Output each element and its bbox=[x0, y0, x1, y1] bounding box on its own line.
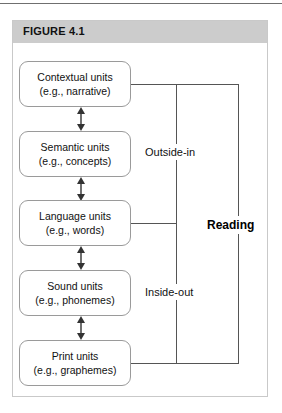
node-example: (e.g., narrative) bbox=[39, 84, 110, 98]
connector-language-horizontal bbox=[131, 223, 177, 224]
node-print-units: Print units (e.g., graphemes) bbox=[19, 340, 131, 386]
bracket-label-reading: Reading bbox=[203, 216, 258, 234]
figure-number-label: FIGURE 4.1 bbox=[23, 25, 85, 37]
node-sound-units: Sound units (e.g., phonemes) bbox=[19, 270, 131, 316]
node-title: Language units bbox=[39, 209, 111, 223]
node-contextual-units: Contextual units (e.g., narrative) bbox=[19, 61, 131, 107]
figure-body: Contextual units (e.g., narrative) Seman… bbox=[13, 43, 267, 398]
connector-contextual-horizontal bbox=[131, 84, 177, 85]
top-divider-rule bbox=[0, 3, 282, 4]
node-title: Semantic units bbox=[41, 140, 110, 154]
double-arrow-icon bbox=[74, 316, 88, 340]
double-arrow-icon bbox=[74, 107, 88, 131]
double-arrow-icon bbox=[74, 177, 88, 201]
figure-panel: FIGURE 4.1 Contextual units (e.g., narra… bbox=[12, 20, 268, 397]
node-title: Print units bbox=[52, 349, 99, 363]
node-example: (e.g., words) bbox=[46, 223, 104, 237]
node-title: Contextual units bbox=[37, 70, 112, 84]
bracket-label-inside-out: Inside-out bbox=[141, 284, 197, 300]
node-language-units: Language units (e.g., words) bbox=[19, 200, 131, 246]
bracket-reading-top-horizontal bbox=[176, 84, 239, 85]
node-title: Sound units bbox=[47, 279, 102, 293]
figure-header-band: FIGURE 4.1 bbox=[13, 21, 267, 43]
bracket-label-outside-in: Outside-in bbox=[141, 144, 199, 160]
connector-print-horizontal bbox=[131, 363, 177, 364]
bracket-reading-bottom-horizontal bbox=[176, 363, 239, 364]
node-semantic-units: Semantic units (e.g., concepts) bbox=[19, 131, 131, 177]
node-example: (e.g., concepts) bbox=[39, 154, 111, 168]
node-example: (e.g., phonemes) bbox=[35, 293, 114, 307]
double-arrow-icon bbox=[74, 246, 88, 270]
node-example: (e.g., graphemes) bbox=[34, 363, 117, 377]
bracket-inner-vertical bbox=[176, 84, 177, 364]
